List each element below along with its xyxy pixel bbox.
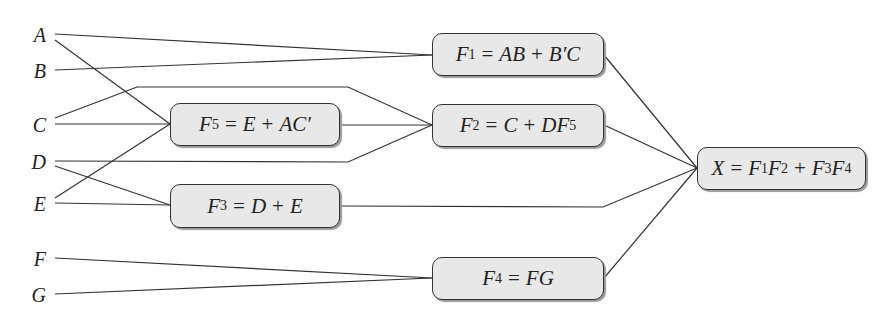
logic-decomposition-diagram: ABCDEFG F1 = AB + B′C F2 = C + DF5 F5 = … — [0, 0, 894, 323]
wire-f2-to-x — [604, 125, 697, 168]
wire-f-to-f4 — [55, 258, 432, 278]
wire-f4-to-x — [604, 168, 697, 278]
input-label-d: D — [22, 152, 46, 172]
input-label-a: A — [22, 25, 46, 45]
f1-lhs: F — [456, 42, 469, 67]
input-label-g: G — [22, 285, 46, 305]
wire-b-to-f1 — [55, 55, 432, 70]
node-f5: F5 = E + AC′ — [170, 103, 340, 146]
node-f2: F2 = C + DF5 — [432, 104, 604, 147]
input-label-b: B — [22, 61, 46, 81]
wire-d-to-f3 — [55, 166, 170, 205]
wire-f1-to-x — [604, 55, 697, 168]
node-f4: F4 = FG — [432, 257, 604, 300]
node-f3: F3 = D + E — [170, 184, 340, 228]
node-x-output: X = F1F2 + F3F4 — [697, 147, 866, 190]
input-label-e: E — [22, 194, 46, 214]
wire-f3-to-x — [340, 168, 697, 207]
input-label-f: F — [22, 249, 46, 269]
wire-a-to-f1 — [55, 34, 432, 55]
wire-g-to-f4 — [55, 278, 432, 294]
input-label-c: C — [22, 115, 46, 135]
node-f1: F1 = AB + B′C — [432, 33, 604, 76]
wire-e-to-f3 — [55, 203, 170, 205]
